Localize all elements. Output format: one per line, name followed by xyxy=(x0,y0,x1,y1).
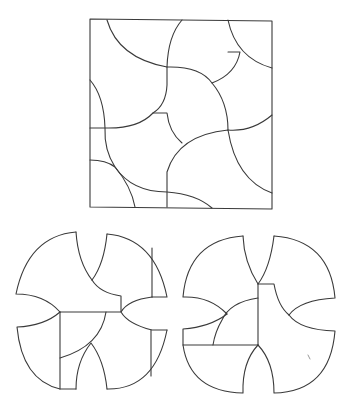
shape-outline xyxy=(17,312,76,389)
square-curve xyxy=(167,130,272,207)
shape-outline xyxy=(243,236,274,284)
shape-outline xyxy=(258,315,335,393)
shape-outline xyxy=(274,236,335,315)
shape-left-panel xyxy=(16,232,167,389)
shape-outline xyxy=(183,345,258,393)
square-curve xyxy=(228,20,272,68)
square-curve xyxy=(107,20,167,67)
puzzle-figure xyxy=(0,0,357,413)
shape-outline xyxy=(213,298,258,345)
shape-outline xyxy=(258,284,289,315)
shape-outline xyxy=(107,234,167,297)
square-curve xyxy=(153,20,182,113)
square-curve xyxy=(90,160,212,208)
shape-outline xyxy=(92,234,107,280)
shape-outline xyxy=(60,312,106,358)
square-curve xyxy=(228,115,272,130)
shape-right-panel xyxy=(183,236,335,393)
square-curve xyxy=(90,80,135,207)
shape-outline xyxy=(60,280,121,312)
square-outline xyxy=(90,19,272,209)
shape-outline xyxy=(121,297,167,330)
shape-outline xyxy=(183,314,258,345)
shape-outline xyxy=(76,232,92,280)
shape-outline xyxy=(76,343,107,389)
shape-outline xyxy=(107,330,167,389)
square-curve xyxy=(212,52,240,83)
square-curve xyxy=(167,67,228,130)
square-panel xyxy=(90,19,272,209)
shape-outline xyxy=(183,236,243,314)
shape-outline xyxy=(16,232,76,312)
stray-mark xyxy=(308,355,310,359)
